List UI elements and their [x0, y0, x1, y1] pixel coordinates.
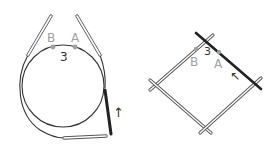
knitting-diagram: B A 3 ↑ B A 3 ↖	[0, 0, 273, 150]
round-number: 3	[60, 51, 68, 63]
dpn-label-b: B	[190, 56, 198, 68]
dpn-round-number: 3	[204, 46, 211, 57]
dpn-bottom-left-icon	[150, 80, 211, 133]
circular-needle-figure	[20, 16, 111, 138]
working-needle-icon	[105, 90, 111, 134]
dpn-marker-a-icon	[217, 50, 221, 54]
dpn-marker-b-icon	[194, 47, 198, 51]
label-b: B	[47, 32, 55, 44]
direction-arrow-icon: ↑	[113, 106, 124, 119]
marker-b-icon	[51, 45, 56, 50]
dpn-working-needle-icon	[196, 33, 261, 89]
dpn-label-a: A	[214, 58, 222, 70]
marker-a-icon	[73, 45, 78, 50]
dpn-top-left-icon	[150, 35, 213, 90]
bottom-needle-icon	[64, 136, 106, 138]
dpn-direction-arrow-icon: ↖	[230, 70, 240, 82]
dpn-bottom-right-icon	[200, 78, 261, 133]
label-a: A	[71, 32, 79, 44]
